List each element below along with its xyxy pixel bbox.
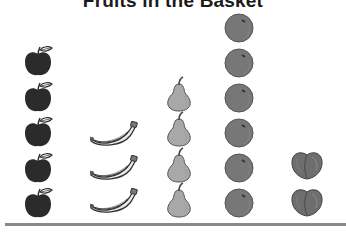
chart-title: Fruits in the Basket (0, 0, 346, 12)
orange-icon (224, 153, 254, 183)
banana-icon (88, 188, 138, 214)
pear-icon (165, 76, 193, 112)
apple-icon (23, 81, 53, 113)
orange-icon (224, 118, 254, 148)
orange-icon (224, 13, 254, 43)
peach-icon (290, 187, 324, 217)
orange-icon (224, 48, 254, 78)
pear-icon (165, 182, 193, 218)
pear-icon (165, 111, 193, 147)
apple-icon (23, 187, 53, 219)
orange-icon (224, 188, 254, 218)
pear-icon (165, 147, 193, 183)
peach-icon (290, 150, 324, 180)
apple-icon (23, 152, 53, 184)
apple-icon (23, 45, 53, 77)
orange-icon (224, 83, 254, 113)
baseline-axis (5, 223, 346, 226)
apple-icon (23, 116, 53, 148)
banana-icon (88, 155, 138, 181)
banana-icon (88, 121, 138, 147)
